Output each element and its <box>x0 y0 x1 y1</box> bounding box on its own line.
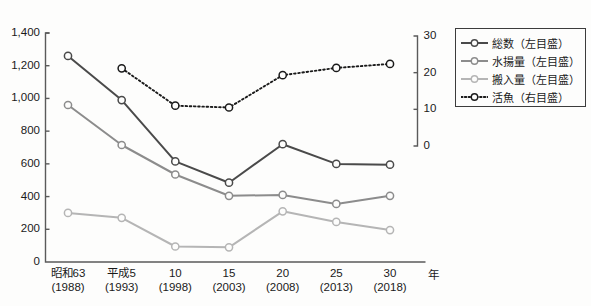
legend-swatch-live <box>461 91 488 103</box>
left-axis-tick: 0 <box>0 255 40 267</box>
legend-item[interactable]: 搬入量（左目盛） <box>461 70 581 88</box>
x-tick-era: 30 <box>357 266 423 280</box>
legend-swatch-carried <box>461 73 488 85</box>
legend-swatch-landed <box>461 55 488 67</box>
left-axis-tick: 400 <box>0 190 40 202</box>
x-axis-unit-label: 年 <box>428 266 439 282</box>
left-axis-tick: 800 <box>0 124 40 136</box>
left-axis-tick: 1,400 <box>0 26 40 38</box>
left-axis-tick: 600 <box>0 157 40 169</box>
chart-legend: 総数（左目盛） 水揚量（左目盛） 搬入量（左目盛） 活魚（右目盛） <box>455 28 586 107</box>
legend-label-total: 総数（左目盛） <box>492 35 569 51</box>
left-axis-tick: 200 <box>0 222 40 234</box>
right-axis-tick: 20 <box>424 66 458 78</box>
left-axis-tick: 1,000 <box>0 91 40 103</box>
left-axis-tick: 1,200 <box>0 59 40 71</box>
legend-label-carried: 搬入量（左目盛） <box>492 71 580 87</box>
right-axis-tick: 0 <box>424 139 458 151</box>
right-axis-tick: 30 <box>424 29 458 41</box>
right-axis-tick: 10 <box>424 102 458 114</box>
x-axis-tick: 30(2018) <box>357 266 423 294</box>
legend-item[interactable]: 水揚量（左目盛） <box>461 52 581 70</box>
legend-swatch-total <box>461 37 488 49</box>
legend-item[interactable]: 総数（左目盛） <box>461 34 581 52</box>
legend-label-live: 活魚（右目盛） <box>492 89 569 105</box>
legend-item[interactable]: 活魚（右目盛） <box>461 88 581 106</box>
x-tick-year: (2018) <box>357 280 423 294</box>
chart-container: 万トン 万トン 1,4001,2001,00080060040020003020… <box>0 0 591 306</box>
legend-label-landed: 水揚量（左目盛） <box>492 53 580 69</box>
